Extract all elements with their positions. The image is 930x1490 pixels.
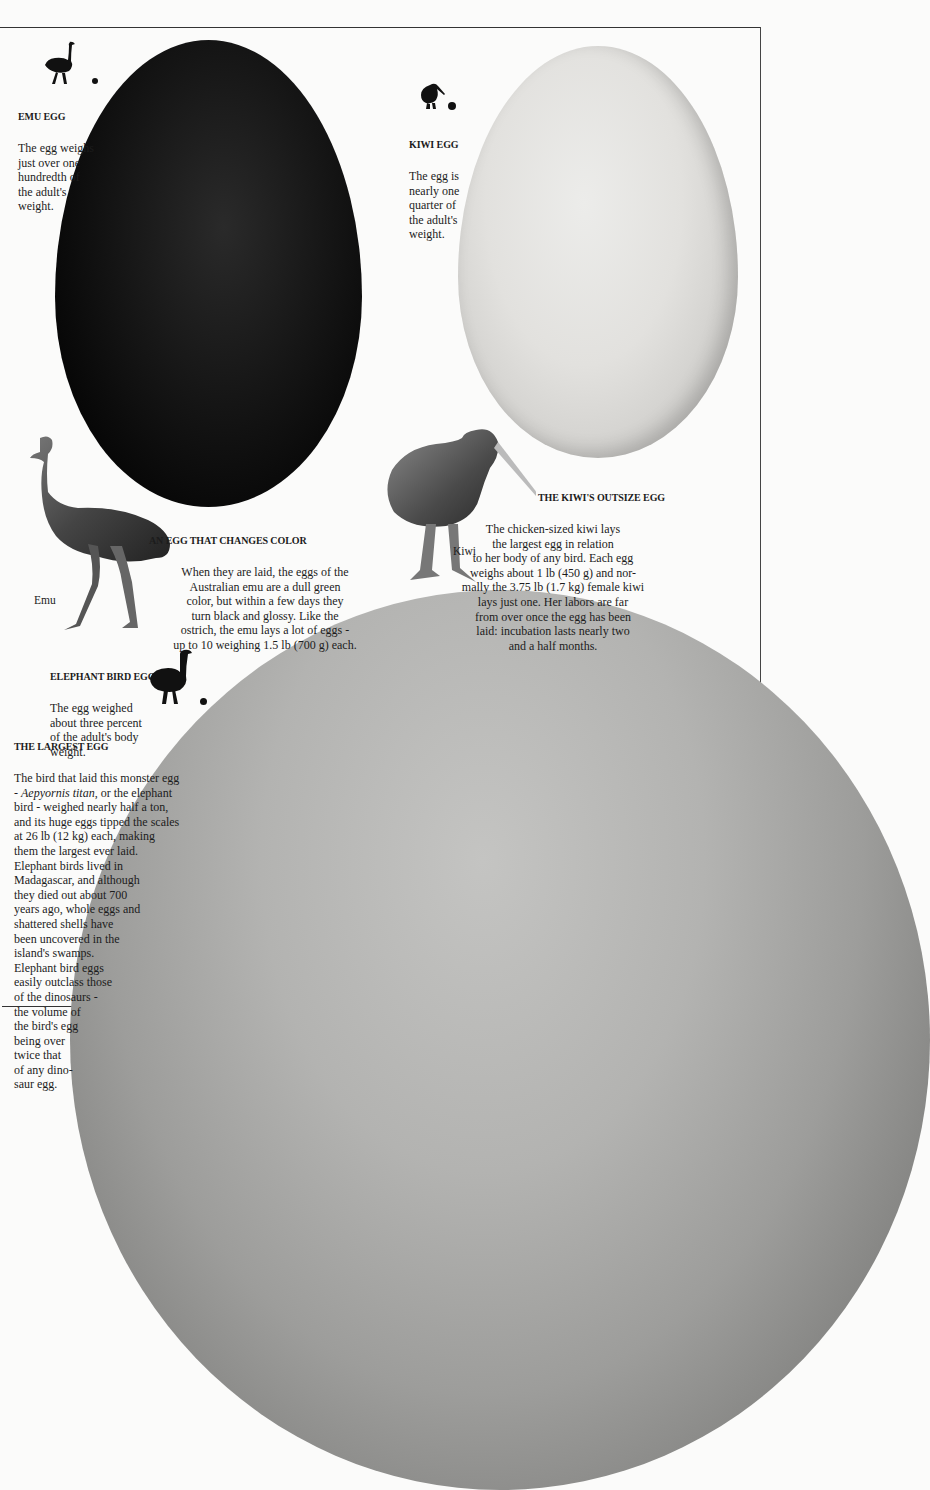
color-change-heading: An egg that changes color <box>140 534 390 547</box>
egg-scale-dot <box>92 78 98 84</box>
largest-egg-text-rest: , or the elephant bird - weighed nearly … <box>14 786 179 1092</box>
right-rule <box>760 27 761 755</box>
emu-egg-text: The egg weighs just over one hundredth o… <box>18 141 128 214</box>
elephant-bird-silhouette-icon <box>148 648 194 708</box>
elephant-bird-egg-heading: Elephant bird egg <box>50 670 160 683</box>
egg-scale-dot <box>448 102 456 110</box>
largest-egg-text: The bird that laid this monster egg - Ae… <box>14 771 204 1092</box>
kiwi-silhouette-icon <box>420 82 448 112</box>
largest-egg-heading: The largest egg <box>14 740 204 753</box>
emu-egg-caption: Emu egg The egg weighs just over one hun… <box>18 92 128 232</box>
color-change-text: When they are laid, the eggs of the Aust… <box>140 565 390 653</box>
species-name: Aepyornis titan <box>21 786 95 800</box>
emu-egg-heading: Emu egg <box>18 110 128 123</box>
kiwi-egg-photo <box>458 46 738 458</box>
top-rule <box>0 27 761 28</box>
emu-label: Emu <box>34 594 56 606</box>
egg-scale-dot <box>200 698 207 705</box>
kiwi-outsize-caption: The kiwi's outsize egg The chicken-sized… <box>428 473 678 671</box>
emu-silhouette-icon <box>40 40 92 86</box>
kiwi-egg-heading: Kiwi egg <box>409 138 489 151</box>
largest-egg-caption: The largest egg The bird that laid this … <box>14 722 204 1110</box>
kiwi-outsize-text: The chicken-sized kiwi lays the largest … <box>428 522 678 653</box>
kiwi-egg-caption: Kiwi egg The egg is nearly one quarter o… <box>409 120 489 260</box>
kiwi-outsize-heading: The kiwi's outsize egg <box>428 491 678 504</box>
kiwi-egg-text: The egg is nearly one quarter of the adu… <box>409 169 489 242</box>
